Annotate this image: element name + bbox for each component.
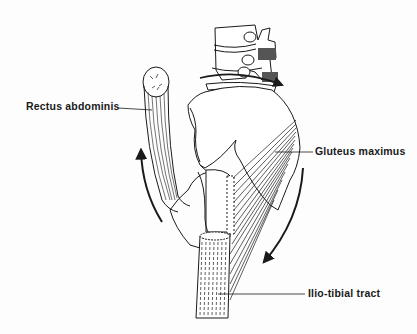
- greater-trochanter: [227, 176, 234, 234]
- gluteus-maximus-label: Gluteus maximus: [315, 145, 406, 157]
- lumbar-spine: [206, 25, 278, 92]
- upward-rotation-arrow: [141, 150, 162, 222]
- ilio-tibial-tract-shape: [196, 232, 230, 318]
- rectus-abdominis-leader: [118, 108, 152, 110]
- rectus-abdominis-label: Rectus abdominis: [26, 100, 120, 112]
- diagram-drawing: [0, 0, 417, 334]
- pelvis: [170, 86, 300, 248]
- rectus-abdominis-shape: [143, 67, 190, 212]
- ilio-tibial-tract-label: Ilio-tibial tract: [308, 287, 380, 299]
- anatomy-diagram: Rectus abdominis Gluteus maximus Ilio-ti…: [0, 0, 417, 334]
